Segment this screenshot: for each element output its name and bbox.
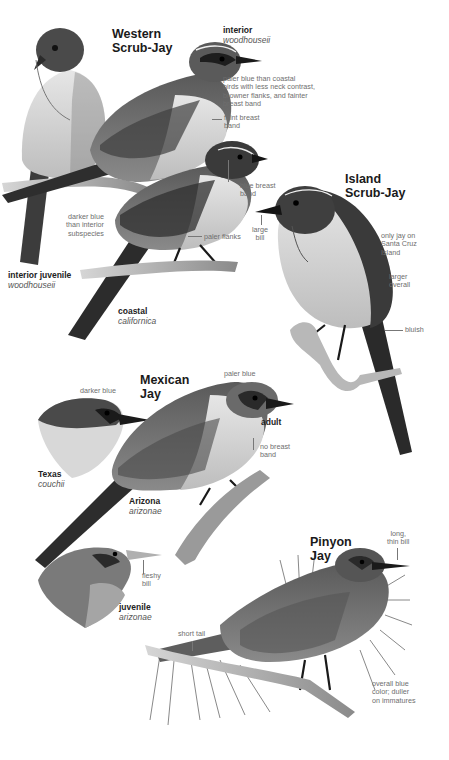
species-name-line2: Scrub-Jay	[112, 42, 172, 56]
note-short-tail: short tail	[178, 630, 205, 638]
form-label-texas: Texas couchii	[38, 470, 64, 489]
note-only-jay-santa-cruz: only jay on Santa Cruz Island	[381, 232, 417, 257]
species-title-mexican-jay: Mexican Jay	[140, 374, 189, 401]
note-paler-blue: paler blue	[224, 370, 256, 378]
note-no-breast-band: no breast band	[260, 443, 290, 460]
form-label-coastal: coastal californica	[118, 307, 156, 326]
form-label-adult: adult	[261, 418, 281, 428]
species-title-western-scrub-jay: Western Scrub-Jay	[112, 28, 172, 55]
form-label-juvenile: juvenile arizonae	[119, 603, 152, 622]
form-label-interior: interior woodhouseii	[223, 26, 270, 45]
leader-faint-band	[212, 119, 222, 120]
form-label-arizona: Arizona arizonae	[129, 497, 162, 516]
leader-large-bill	[261, 215, 262, 225]
leader-short-tail	[192, 641, 193, 651]
note-darker-blue: darker blue	[80, 387, 116, 395]
leader-blue-band	[228, 160, 229, 182]
form-label-interior-juvenile: interior juvenile woodhouseii	[8, 271, 71, 290]
note-bluish: bluish	[405, 326, 424, 334]
note-darker-blue-coastal: darker blue than interior subspecies	[66, 213, 104, 238]
leader-long-bill	[397, 548, 398, 560]
note-fleshy-bill: fleshy bill	[142, 572, 161, 589]
leader-paler-flanks	[188, 236, 202, 237]
note-large-bill: large bill	[252, 226, 268, 243]
leader-bluish	[385, 330, 403, 331]
note-faint-breast-band: faint breast band	[224, 114, 260, 131]
note-interior-paler: paler blue than coastal birds with less …	[223, 75, 315, 109]
species-name-line1: Western	[112, 28, 172, 42]
note-blue-breast-band: blue breast band	[240, 182, 276, 199]
note-paler-flanks: paler flanks	[204, 233, 241, 241]
species-title-pinyon-jay: Pinyon Jay	[310, 536, 352, 563]
leader-no-band	[253, 438, 254, 450]
field-guide-page: Western Scrub-Jay interior woodhouseii p…	[0, 0, 449, 760]
species-title-island-scrub-jay: Island Scrub-Jay	[345, 173, 405, 200]
note-overall-blue: overall blue color; duller on immatures	[372, 680, 416, 705]
island-scrub-jay-bird	[255, 186, 412, 455]
note-long-thin-bill: long, thin bill	[387, 530, 409, 547]
note-larger-overall: larger overall	[389, 273, 410, 290]
